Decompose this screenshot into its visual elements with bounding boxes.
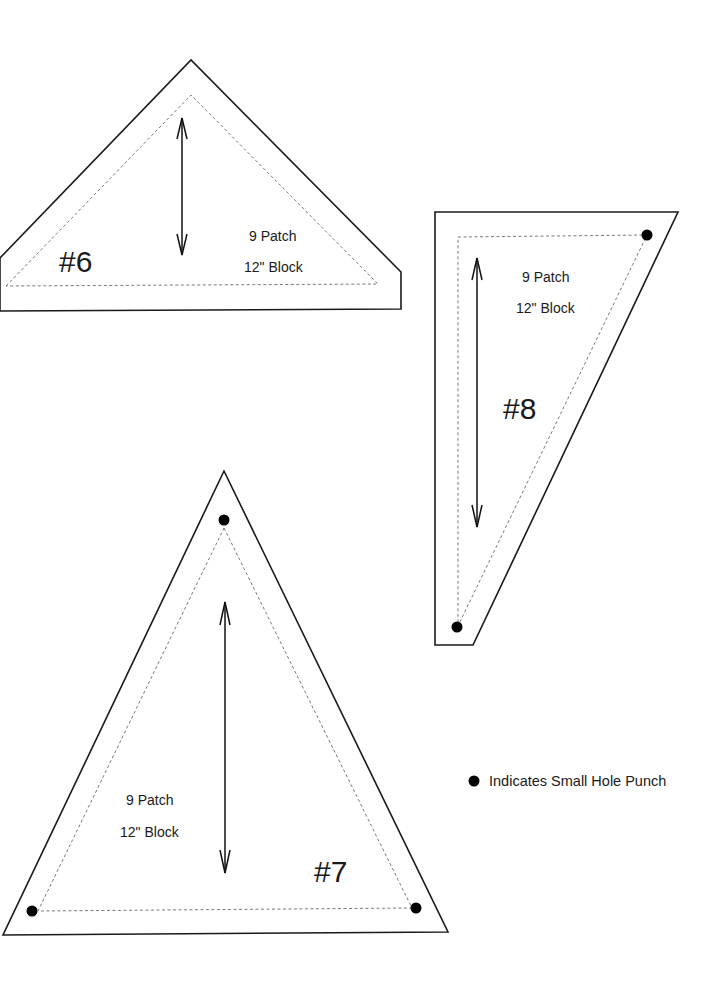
template-7-number: #7 xyxy=(314,855,347,888)
template-sheet: #6 9 Patch 12" Block #8 9 Patch 12" Bloc… xyxy=(0,0,721,984)
template-6-number: #6 xyxy=(59,245,92,278)
template-6-size-label: 12" Block xyxy=(244,259,304,275)
legend: Indicates Small Hole Punch xyxy=(469,773,667,789)
legend-hole-punch-icon xyxy=(469,776,480,787)
template-8-pattern-label: 9 Patch xyxy=(522,269,569,285)
template-7-size-label: 12" Block xyxy=(120,824,180,840)
template-7-hole-punch-icon xyxy=(27,906,38,917)
template-7-hole-punch-icon xyxy=(411,903,422,914)
template-8-hole-punch-icon xyxy=(452,622,463,633)
template-8-size-label: 12" Block xyxy=(516,300,576,316)
template-6: #6 9 Patch 12" Block xyxy=(0,60,401,311)
template-8-number: #8 xyxy=(503,392,536,425)
template-7-pattern-label: 9 Patch xyxy=(126,792,173,808)
template-6-pattern-label: 9 Patch xyxy=(249,228,296,244)
legend-text: Indicates Small Hole Punch xyxy=(489,773,666,789)
template-8: #8 9 Patch 12" Block xyxy=(435,212,678,645)
template-7: #7 9 Patch 12" Block xyxy=(3,471,448,935)
template-7-hole-punch-icon xyxy=(219,515,230,526)
template-8-hole-punch-icon xyxy=(642,230,653,241)
